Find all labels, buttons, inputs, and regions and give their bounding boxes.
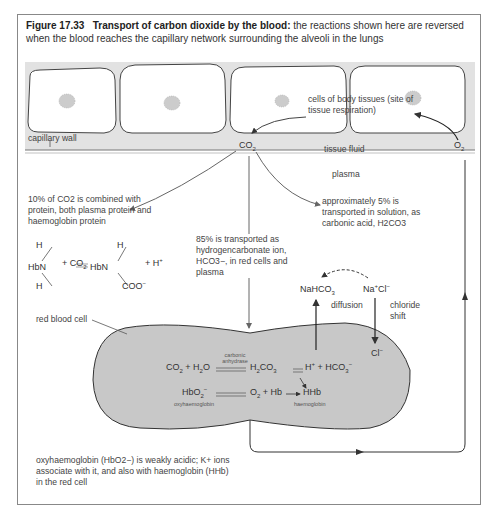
nahco3-label: NaHCO3 [300, 284, 335, 295]
o2-label: O2 [454, 140, 464, 151]
capillary-wall-label: capillary wall [28, 133, 77, 144]
red-blood-cell [93, 323, 410, 429]
cl-label: Cl− [371, 348, 383, 359]
tissue-fluid-label: tissue fluid [324, 144, 365, 155]
body-cells-label: cells of body tissues (site of tissue re… [308, 94, 418, 116]
carbonic-anhydrase-label: carbonic anhydrase [220, 352, 250, 364]
diffusion-label: diffusion [331, 300, 363, 311]
plasma-label: plasma [332, 169, 360, 180]
red-blood-cell-label: red blood cell [36, 314, 87, 325]
solution-pathway-text: approximately 5% is transported in solut… [322, 196, 432, 229]
protein-pathway-text: 10% of CO2 is combined with protein, bot… [28, 194, 158, 227]
chloride-shift-label: chloride shift [390, 300, 430, 322]
co2-label: CO2 [239, 140, 256, 151]
hydrogencarbonate-pathway-text: 85% is transported as hydrogencarbonate … [196, 234, 311, 278]
footnote-text: oxyhaemoglobin (HbO2−) is weakly acidic;… [36, 455, 236, 488]
nacl-label: Na+Cl− [363, 284, 390, 295]
haemoglobin-label: haemoglobin [294, 401, 326, 407]
oxyhaemoglobin-label: oxyhaemoglobin [174, 401, 214, 407]
